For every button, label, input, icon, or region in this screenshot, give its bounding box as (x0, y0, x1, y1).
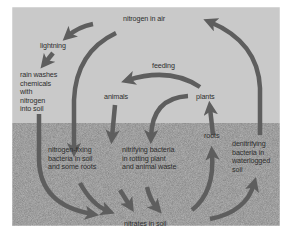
label-roots: roots (204, 132, 219, 141)
label-nitr-line-3: and animal waste (122, 163, 176, 172)
label-nitrifying: nitrifying bacteria in rotting plant and… (122, 146, 176, 172)
label-denitrifying: denitrifying bacteria in waterlogged soi… (232, 140, 270, 174)
diagram-graphics (0, 0, 292, 244)
label-denit-line-4: soil (232, 166, 270, 175)
label-feeding: feeding (152, 62, 175, 71)
label-nitrates-in-soil: nitrates in soil (124, 220, 166, 229)
label-nitrogen-in-air: nitrogen in air (123, 15, 165, 24)
label-plants: plants (196, 93, 215, 102)
label-rain-line-5: into soil (20, 105, 57, 114)
label-animals: animals (104, 93, 128, 102)
label-nfix-line-3: and some roots (48, 163, 96, 172)
arrow-animals-to-nitrifying (112, 105, 115, 137)
label-nitrogen-fixing: nitrogen-fixing bacteria in soil and som… (48, 146, 96, 172)
label-rain: rain washes chemicals with nitrogen into… (20, 71, 57, 114)
nitrogen-cycle-diagram: nitrogen in air lightning rain washes ch… (0, 0, 292, 244)
label-lightning: lightning (40, 42, 66, 51)
